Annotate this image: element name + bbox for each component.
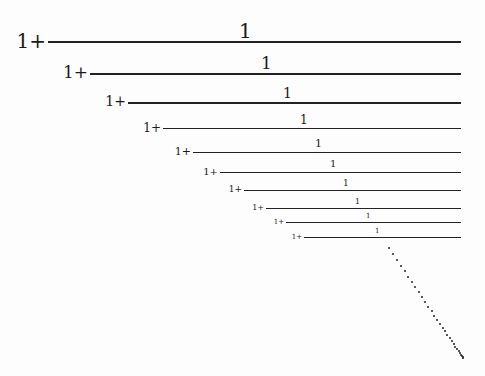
fraction-bar xyxy=(266,208,461,209)
numerator: 1 xyxy=(343,178,349,188)
fraction-bar xyxy=(220,172,461,173)
term-prefix: 1+ xyxy=(274,218,284,226)
ellipsis-dot xyxy=(442,327,444,329)
term-prefix: 1+ xyxy=(229,184,242,194)
ellipsis-dot xyxy=(451,340,453,342)
ellipsis-dot xyxy=(400,265,402,267)
fraction-bar xyxy=(163,128,461,129)
term-prefix: 1+ xyxy=(175,145,191,158)
ellipsis-dot xyxy=(444,330,446,332)
ellipsis-dot xyxy=(414,286,416,288)
numerator: 1 xyxy=(239,19,252,43)
ellipsis-dot xyxy=(424,301,426,303)
ellipsis-dot xyxy=(436,319,438,321)
term-prefix: 1+ xyxy=(292,233,302,241)
ellipsis-dot xyxy=(388,247,390,249)
fraction-bar xyxy=(286,222,461,223)
numerator: 1 xyxy=(375,227,379,235)
ellipsis-dot xyxy=(427,306,429,308)
numerator: 1 xyxy=(366,212,370,220)
numerator: 1 xyxy=(300,113,308,127)
term-prefix: 1+ xyxy=(143,121,161,135)
ellipsis-dot xyxy=(404,270,406,272)
fraction-bar xyxy=(244,190,461,191)
fraction-bar xyxy=(304,237,461,238)
term-prefix: 1+ xyxy=(252,203,264,212)
fraction-bar xyxy=(48,41,461,43)
ellipsis-dot xyxy=(392,253,394,255)
ellipsis-dot xyxy=(411,281,413,283)
term-prefix: 1+ xyxy=(17,29,46,53)
ellipsis-dot xyxy=(449,337,451,339)
fraction-bar xyxy=(128,102,461,104)
continued-fraction-diagram: 1+11+11+11+11+11+11+11+11+11+1 xyxy=(0,0,485,376)
numerator: 1 xyxy=(261,53,272,73)
fraction-bar xyxy=(193,152,461,153)
ellipsis-dot xyxy=(396,259,398,261)
ellipsis-dot xyxy=(453,343,455,345)
ellipsis-dot xyxy=(439,323,441,325)
ellipsis-dot xyxy=(421,296,423,298)
numerator: 1 xyxy=(330,158,336,169)
term-prefix: 1+ xyxy=(203,166,218,177)
ellipsis-dot xyxy=(431,310,433,312)
term-prefix: 1+ xyxy=(105,93,126,109)
numerator: 1 xyxy=(315,137,322,150)
ellipsis-dot xyxy=(446,334,448,336)
numerator: 1 xyxy=(283,85,292,101)
term-prefix: 1+ xyxy=(63,62,88,82)
ellipsis-dot xyxy=(433,315,435,317)
fraction-bar xyxy=(90,73,461,75)
ellipsis-dot xyxy=(462,357,464,359)
numerator: 1 xyxy=(355,197,360,206)
ellipsis-dot xyxy=(407,276,409,278)
ellipsis-dot xyxy=(418,291,420,293)
